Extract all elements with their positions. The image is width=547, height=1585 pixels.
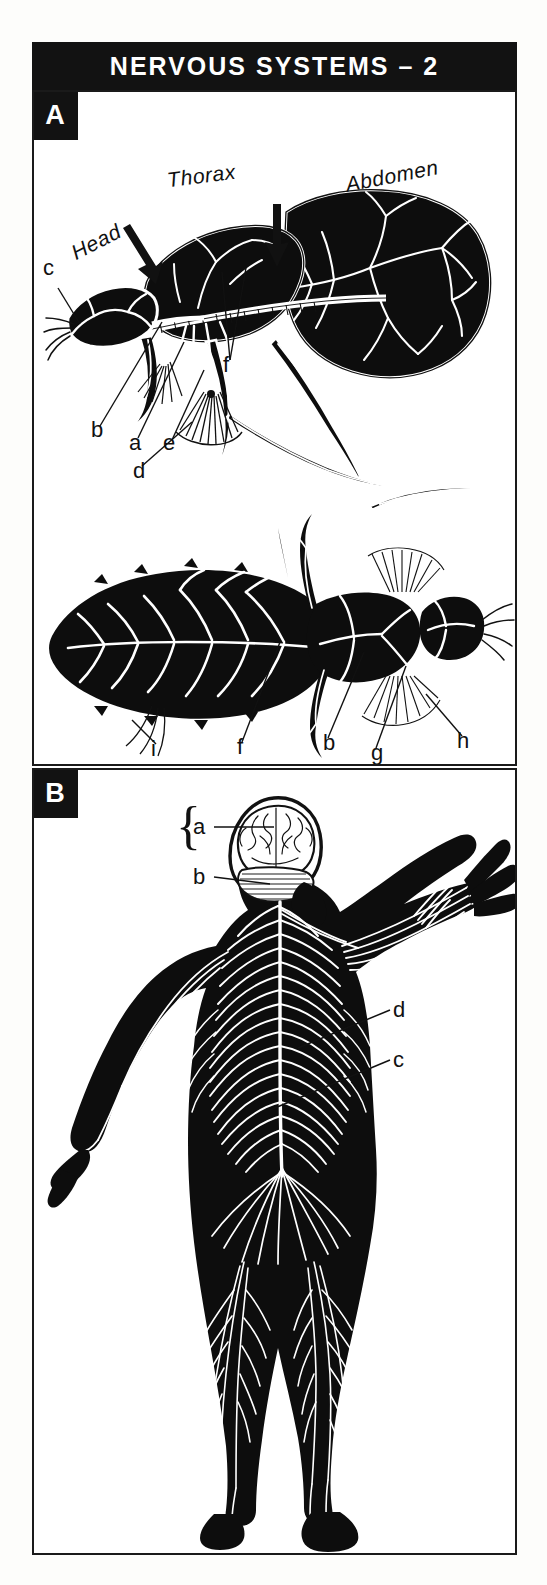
label-b-b: b (193, 864, 205, 890)
label-b-a: a (193, 814, 205, 840)
label-a-dorsal-h: h (457, 728, 469, 754)
label-b-c: c (393, 1047, 404, 1073)
panel-b: B (32, 768, 517, 1555)
figure-plate: NERVOUS SYSTEMS – 2 A (32, 42, 517, 1555)
panel-a-badge: A (32, 90, 78, 140)
label-a-a: a (129, 430, 141, 456)
panel-b-badge: B (32, 768, 78, 818)
insect-nervous-system-artwork (34, 92, 515, 764)
panel-a-badge-label: A (45, 100, 65, 131)
label-a-dorsal-b: b (323, 730, 335, 756)
label-b-d: d (393, 997, 405, 1023)
panel-b-badge-label: B (45, 778, 65, 809)
human-nervous-system-artwork (34, 770, 515, 1553)
page-title: NERVOUS SYSTEMS – 2 (110, 52, 439, 81)
label-a-dorsal-i: i (151, 736, 156, 762)
label-a-c: c (43, 255, 54, 281)
label-a-b: b (91, 417, 103, 443)
label-a-dorsal-g: g (371, 740, 383, 766)
plate-title-bar: NERVOUS SYSTEMS – 2 (32, 42, 517, 90)
label-a-e: e (163, 430, 175, 456)
label-a-dorsal-f: f (237, 734, 243, 760)
head-arrow-icon (123, 224, 163, 284)
panel-a: A (32, 90, 517, 766)
label-a-d: d (133, 458, 145, 484)
label-a-f: f (223, 352, 229, 378)
